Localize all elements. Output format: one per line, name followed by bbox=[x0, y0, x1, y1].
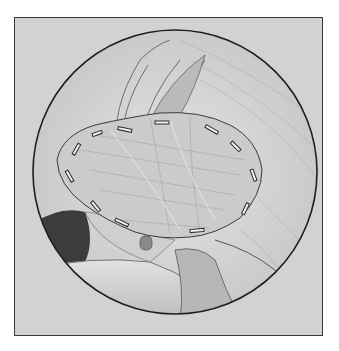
circular-view bbox=[30, 28, 320, 318]
surgical-illustration bbox=[0, 0, 339, 351]
